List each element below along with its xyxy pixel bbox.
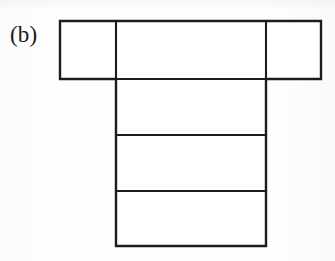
cell-top-left bbox=[60, 21, 116, 79]
cell-faces bbox=[60, 21, 321, 246]
polyomino-diagram bbox=[0, 0, 335, 261]
figure-panel: (b) bbox=[0, 0, 335, 261]
cell-top-right bbox=[266, 21, 321, 79]
cell-top-center bbox=[116, 21, 266, 79]
cell-stem-lower bbox=[116, 191, 266, 246]
cell-stem-middle bbox=[116, 135, 266, 191]
cell-stem-upper bbox=[116, 79, 266, 135]
